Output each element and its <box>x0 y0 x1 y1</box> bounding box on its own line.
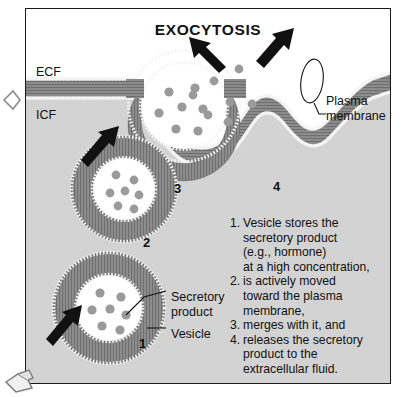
step-text-line: is actively moved <box>243 274 390 289</box>
scan-artifact-left <box>0 80 24 120</box>
step-text-line: at a high concentration, <box>243 260 390 275</box>
step-text-line: toward the plasma <box>243 289 390 304</box>
step-item: 4.releases the secretoryproduct to theex… <box>230 333 390 377</box>
scan-artifact-bottom-left <box>2 358 42 396</box>
vesicle-label: Vesicle <box>171 327 211 342</box>
plasma-membrane-label-line1: Plasma <box>326 94 386 109</box>
icf-label: ICF <box>36 108 56 122</box>
vesicle-stage-1 <box>53 252 165 364</box>
figure-title: EXOCYTOSIS <box>26 21 390 39</box>
figure-panel: EXOCYTOSIS ECF ICF 1 2 3 4 Secretory pro… <box>25 8 391 384</box>
step-item: 1.Vesicle stores thesecretory product(e.… <box>230 216 390 274</box>
stage-number-2: 2 <box>143 235 150 250</box>
step-item: 3.merges with it, and <box>230 318 390 333</box>
plasma-membrane-label: Plasma membrane <box>326 94 386 123</box>
step-text-line: membrane, <box>243 304 390 319</box>
step-marker: 1. <box>230 216 243 274</box>
step-text: releases the secretoryproduct to theextr… <box>243 333 390 377</box>
plasma-membrane-label-line2: membrane <box>326 109 386 124</box>
stage-number-3: 3 <box>174 181 181 196</box>
ecf-label: ECF <box>36 65 61 79</box>
step-text: is actively movedtoward the plasmamembra… <box>243 274 390 318</box>
stage-number-4: 4 <box>273 179 280 194</box>
exocytosis-steps-list: 1.Vesicle stores thesecretory product(e.… <box>230 216 390 377</box>
step-text-line: (e.g., hormone) <box>243 245 390 260</box>
secretory-product-label-line2: product <box>171 305 225 320</box>
exocytosis-figure: EXOCYTOSIS ECF ICF 1 2 3 4 Secretory pro… <box>0 0 402 397</box>
vesicle-stage-2 <box>71 136 177 242</box>
step-item: 2.is actively movedtoward the plasmamemb… <box>230 274 390 318</box>
stage-number-1: 1 <box>139 336 146 351</box>
step-marker: 3. <box>230 318 243 333</box>
secretory-product-label-line1: Secretory <box>171 290 225 305</box>
secretory-product-label: Secretory product <box>171 290 225 319</box>
step-text-line: Vesicle stores the <box>243 216 390 231</box>
step-text-line: product to the <box>243 347 390 362</box>
step-text-line: merges with it, and <box>243 318 390 333</box>
step-text: merges with it, and <box>243 318 390 333</box>
step-marker: 2. <box>230 274 243 318</box>
membrane-callout-ring <box>298 58 326 105</box>
step-text-line: secretory product <box>243 231 390 246</box>
step-text-line: releases the secretory <box>243 333 390 348</box>
step-text: Vesicle stores thesecretory product(e.g.… <box>243 216 390 274</box>
step-text-line: extracellular fluid. <box>243 362 390 377</box>
step-marker: 4. <box>230 333 243 377</box>
